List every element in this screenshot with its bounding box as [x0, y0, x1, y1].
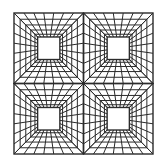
illusion-drawing [0, 0, 166, 167]
tunnel-grid-illusion [0, 0, 166, 167]
